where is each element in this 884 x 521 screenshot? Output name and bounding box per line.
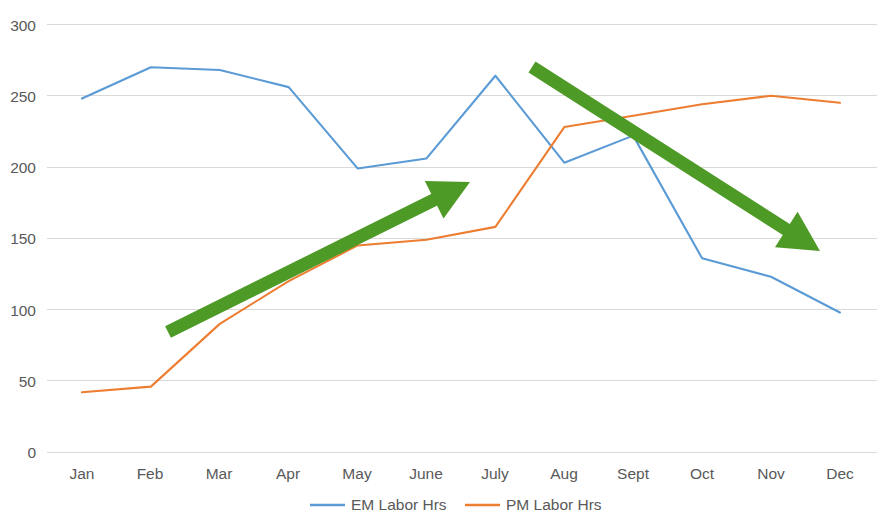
y-tick-label: 200 [10,159,36,176]
x-tick-label: Feb [137,465,164,482]
y-tick-label: 150 [10,230,36,247]
x-tick-label: Jan [70,465,95,482]
y-tick-label: 0 [27,444,36,461]
legend-label-pm-labor-hrs: PM Labor Hrs [506,496,602,513]
legend-label-em-labor-hrs: EM Labor Hrs [351,496,447,513]
x-tick-label: Apr [276,465,300,482]
x-tick-label: July [481,465,509,482]
x-tick-label: Mar [206,465,233,482]
line-chart: 300 250 200 150 100 50 0 Jan Feb Mar Apr… [0,0,884,521]
x-tick-label: Sept [617,465,650,482]
x-tick-label: Oct [690,465,715,482]
x-tick-label: May [342,465,372,482]
x-tick-label: Aug [550,465,578,482]
chart-canvas: 300 250 200 150 100 50 0 Jan Feb Mar Apr… [0,0,884,521]
y-tick-label: 300 [10,17,36,34]
x-tick-label: Nov [757,465,785,482]
y-tick-label: 50 [19,373,37,390]
x-tick-label: Dec [826,465,854,482]
y-tick-label: 250 [10,88,36,105]
y-tick-label: 100 [10,302,36,319]
chart-background [0,0,884,521]
x-tick-label: June [409,465,443,482]
